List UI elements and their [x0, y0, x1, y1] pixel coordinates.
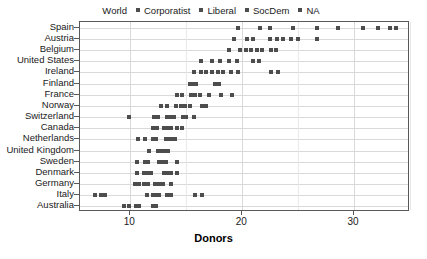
- data-point: [153, 182, 157, 186]
- data-point: [172, 115, 176, 119]
- gridline-horizontal: [80, 95, 408, 96]
- legend-label-corporatist: Corporatist: [144, 5, 190, 16]
- legend-entry-socdem: SocDem: [245, 5, 289, 16]
- data-point: [268, 37, 272, 41]
- data-point: [169, 182, 173, 186]
- data-point: [169, 171, 173, 175]
- data-point: [229, 70, 233, 74]
- gridline-horizontal: [80, 195, 408, 196]
- data-point: [173, 137, 177, 141]
- data-point: [143, 137, 147, 141]
- x-axis-ticks: 102030: [0, 211, 427, 231]
- data-point: [137, 182, 141, 186]
- x-axis-tick-label: 30: [348, 216, 359, 227]
- data-point: [230, 93, 234, 97]
- data-point: [192, 115, 196, 119]
- data-point: [183, 104, 187, 108]
- legend-label-socdem: SocDem: [253, 5, 289, 16]
- y-axis-label-denmark: Denmark: [35, 167, 74, 177]
- data-point: [199, 59, 203, 63]
- data-point: [281, 37, 285, 41]
- data-point: [251, 59, 255, 63]
- data-point: [275, 37, 279, 41]
- y-axis-label-italy: Italy: [57, 189, 74, 199]
- data-point: [227, 48, 231, 52]
- data-point: [179, 104, 183, 108]
- data-point: [147, 149, 151, 153]
- data-point: [156, 115, 160, 119]
- data-point: [142, 182, 146, 186]
- data-point: [154, 204, 158, 208]
- data-point: [169, 193, 173, 197]
- data-point: [210, 70, 214, 74]
- y-axis-label-united-kingdom: United Kingdom: [6, 145, 74, 155]
- data-point: [204, 70, 208, 74]
- x-axis-tick: [241, 211, 242, 215]
- data-point: [269, 70, 273, 74]
- data-point: [161, 182, 165, 186]
- data-point: [193, 193, 197, 197]
- gridline-horizontal: [80, 128, 408, 129]
- data-point: [157, 193, 161, 197]
- data-point: [244, 48, 248, 52]
- gridline-horizontal: [80, 139, 408, 140]
- data-point: [165, 104, 169, 108]
- y-axis-label-sweden: Sweden: [40, 156, 74, 166]
- legend-marker-liberal-icon: [199, 8, 203, 12]
- data-point: [175, 93, 179, 97]
- data-point: [394, 26, 398, 30]
- data-point: [235, 59, 239, 63]
- data-point: [175, 171, 179, 175]
- data-point: [291, 26, 295, 30]
- y-axis-label-finland: Finland: [43, 78, 74, 88]
- gridline-horizontal: [80, 184, 408, 185]
- x-axis-tick: [353, 211, 354, 215]
- x-axis-title: Donors: [0, 232, 427, 244]
- data-point: [135, 171, 139, 175]
- data-point: [154, 137, 158, 141]
- data-point: [249, 48, 253, 52]
- data-point: [204, 104, 208, 108]
- data-point: [296, 37, 300, 41]
- scatter-plot-area: [79, 21, 409, 211]
- data-point: [133, 182, 137, 186]
- gridline-horizontal: [80, 84, 408, 85]
- legend-entry-na: NA: [298, 5, 319, 16]
- data-point: [388, 26, 392, 30]
- legend-entry-world: World: [98, 5, 127, 16]
- y-axis-label-france: France: [44, 89, 74, 99]
- data-point: [155, 126, 159, 130]
- y-axis-label-spain: Spain: [50, 22, 74, 32]
- data-point: [192, 70, 196, 74]
- gridline-horizontal: [80, 162, 408, 163]
- x-axis-tick-label: 10: [124, 216, 135, 227]
- data-point: [200, 104, 204, 108]
- gridline-horizontal: [80, 28, 408, 29]
- data-point: [188, 104, 192, 108]
- y-axis-label-netherlands: Netherlands: [23, 133, 74, 143]
- data-point: [127, 204, 131, 208]
- data-point: [274, 48, 278, 52]
- data-point: [236, 26, 240, 30]
- data-point: [93, 193, 97, 197]
- legend-label-liberal: Liberal: [207, 5, 236, 16]
- data-point: [151, 126, 155, 130]
- data-point: [221, 70, 225, 74]
- data-point: [232, 37, 236, 41]
- y-axis-label-canada: Canada: [41, 122, 74, 132]
- gridline-vertical-minor: [410, 22, 411, 210]
- data-point: [260, 48, 264, 52]
- data-point: [251, 37, 255, 41]
- data-point: [200, 193, 204, 197]
- data-point: [180, 93, 184, 97]
- data-point: [145, 193, 149, 197]
- data-point: [238, 48, 242, 52]
- data-point: [159, 104, 163, 108]
- x-axis-tick: [129, 211, 130, 215]
- data-point: [137, 204, 141, 208]
- data-point: [174, 104, 178, 108]
- data-point: [258, 26, 262, 30]
- data-point: [257, 59, 261, 63]
- data-point: [103, 193, 107, 197]
- data-point: [164, 160, 168, 164]
